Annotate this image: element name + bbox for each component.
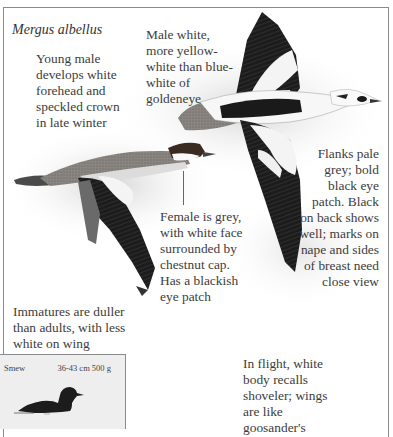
annotation-female: Female is grey, with white face surround… — [160, 209, 243, 305]
inset-common-name: Smew — [4, 363, 25, 373]
annotation-in-flight: In flight, white body recalls shoveler; … — [243, 356, 327, 436]
annotation-immatures: Immatures are duller than adults, with l… — [13, 304, 125, 352]
female-pointer-line — [183, 171, 184, 205]
inset-size-weight: 36-43 cm 500 g — [57, 363, 111, 373]
annotation-flanks: Flanks pale grey; bold black eye patch. … — [299, 146, 379, 290]
annotation-young-male: Young male develops white forehead and s… — [36, 51, 120, 131]
swimming-duck-silhouette-icon — [14, 381, 84, 417]
wing-tip-mark — [136, 286, 148, 296]
species-title: Mergus albellus — [12, 22, 102, 38]
size-inset: Smew 36-43 cm 500 g — [0, 354, 126, 429]
annotation-male-white: Male white, more yellow- white than blue… — [146, 27, 233, 107]
